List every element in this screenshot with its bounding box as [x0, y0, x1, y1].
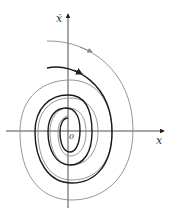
phase-portrait: ẋ x 0 [0, 0, 172, 213]
origin-label: 0 [69, 132, 74, 141]
x-axis-label: x [156, 134, 163, 147]
y-axis-label: ẋ [56, 12, 63, 25]
